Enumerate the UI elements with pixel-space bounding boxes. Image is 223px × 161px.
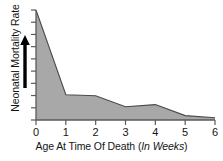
x-axis-title-unit: In Weeks xyxy=(141,140,184,152)
plot-area: 0123456 xyxy=(0,0,223,161)
x-axis-tick-label: 2 xyxy=(93,126,99,138)
x-axis-title-main: Age At Time Of Death ( xyxy=(36,140,142,152)
x-axis-tick-label: 4 xyxy=(152,126,158,138)
x-axis-tick-label: 0 xyxy=(33,126,39,138)
up-arrow-icon xyxy=(20,35,30,88)
data-area-series xyxy=(36,10,215,120)
x-axis-tick-label: 5 xyxy=(182,126,188,138)
x-axis-tick-label: 1 xyxy=(63,126,69,138)
x-axis-tick-label: 6 xyxy=(212,126,218,138)
neonatal-mortality-chart: Neonatal Mortality Rate 0123456 Age At T… xyxy=(0,0,223,161)
x-axis-title: Age At Time Of Death (In Weeks) xyxy=(0,140,223,152)
x-axis-tick-label: 3 xyxy=(122,126,128,138)
y-axis-ticks xyxy=(31,10,36,120)
x-axis-tick-labels: 0123456 xyxy=(33,126,218,138)
x-axis-ticks xyxy=(36,120,215,125)
x-axis-title-close: ) xyxy=(184,140,187,152)
